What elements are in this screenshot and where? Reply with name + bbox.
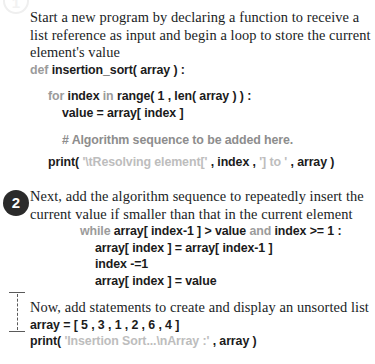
- code-token: array[ index ] = value: [95, 274, 216, 288]
- step-continuation-rule: [9, 292, 25, 332]
- code-line: print( 'Insertion Sort...\nArray :' , ar…: [30, 333, 375, 350]
- code-blank-line: [30, 78, 375, 88]
- code-string: '\tResolving element[': [82, 155, 210, 169]
- code-token: , array ): [213, 334, 257, 348]
- code-token: , index ,: [211, 155, 260, 169]
- code-token: index: [68, 89, 103, 103]
- tutorial-step-3: Now, add statements to create and displa…: [30, 299, 375, 350]
- code-string: '] to ': [259, 155, 290, 169]
- code-token: , array ): [290, 155, 334, 169]
- tutorial-step-1: Start a new program by declaring a funct…: [30, 9, 375, 171]
- code-keyword: def: [30, 63, 52, 77]
- code-token: index -=1: [95, 257, 148, 271]
- code-keyword: and: [249, 224, 274, 238]
- code-comment: # Algorithm sequence to be added here.: [62, 133, 293, 147]
- code-line: array = [ 5 , 3 , 1 , 2 , 6 , 4 ]: [30, 317, 375, 334]
- step-3-description: Now, add statements to create and displa…: [30, 299, 375, 317]
- code-token: print(: [30, 334, 64, 348]
- code-blank-line: [30, 122, 375, 132]
- code-line: print( '\tResolving element[' , index , …: [30, 154, 375, 171]
- code-token: range( 1 , len( array ) ) :: [117, 89, 251, 103]
- code-keyword: while: [80, 224, 114, 238]
- step-1-code-block: def insertion_sort( array ) :for index i…: [30, 62, 375, 171]
- code-token: insertion_sort( array ) :: [52, 63, 185, 77]
- code-line: def insertion_sort( array ) :: [30, 62, 375, 79]
- code-line: index -=1: [30, 256, 375, 273]
- tutorial-step-2: Next, add the algorithm sequence to repe…: [30, 188, 375, 290]
- code-line: while array[ index-1 ] > value and index…: [30, 223, 375, 240]
- code-line: array[ index ] = value: [30, 273, 375, 290]
- rule-cap-bottom: [9, 331, 25, 332]
- step-2-code-block: while array[ index-1 ] > value and index…: [30, 223, 375, 289]
- code-token: index >= 1 :: [275, 224, 342, 238]
- code-token: array[ index-1 ] > value: [114, 224, 250, 238]
- step-3-code-block: array = [ 5 , 3 , 1 , 2 , 6 , 4 ]print( …: [30, 317, 375, 350]
- step-marker-2: 2: [3, 190, 29, 216]
- code-keyword: in: [103, 89, 117, 103]
- step-marker-1: 1: [3, 0, 29, 14]
- rule-stem-dashed: [17, 294, 18, 330]
- step-2-description: Next, add the algorithm sequence to repe…: [30, 188, 375, 223]
- code-token: value = array[ index ]: [62, 106, 183, 120]
- code-line: for index in range( 1 , len( array ) ) :: [30, 88, 375, 105]
- code-string: 'Insertion Sort...\nArray :': [64, 334, 212, 348]
- code-token: array[ index ] = array[ index-1 ]: [95, 241, 272, 255]
- code-keyword: for: [48, 89, 68, 103]
- step-1-description: Start a new program by declaring a funct…: [30, 9, 375, 62]
- code-line: array[ index ] = array[ index-1 ]: [30, 240, 375, 257]
- code-line: value = array[ index ]: [30, 105, 375, 122]
- rule-cap-top: [9, 292, 25, 293]
- code-token: print(: [48, 155, 82, 169]
- code-token: array = [ 5 , 3 , 1 , 2 , 6 , 4 ]: [30, 318, 179, 332]
- code-line: # Algorithm sequence to be added here.: [30, 132, 375, 149]
